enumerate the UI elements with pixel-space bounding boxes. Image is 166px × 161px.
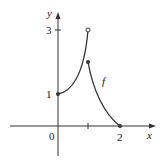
curve-piece-2 (88, 62, 120, 126)
curve-piece-1 (58, 30, 88, 94)
open-point-1-3 (86, 28, 90, 32)
closed-point-2-0 (118, 124, 122, 128)
x-axis-label: x (146, 129, 152, 141)
x-tick-label-2: 2 (117, 131, 123, 143)
closed-point-1-2 (86, 60, 90, 64)
y-axis-label: y (46, 7, 52, 19)
closed-point-0-1 (56, 92, 60, 96)
y-tick-label-1: 1 (46, 88, 52, 100)
x-axis-arrow-icon (149, 124, 156, 129)
function-graph: y 3 1 0 2 x f (0, 0, 166, 161)
y-axis-arrow-icon (56, 12, 61, 19)
function-label: f (102, 75, 107, 87)
origin-label: 0 (49, 130, 55, 142)
y-tick-label-3: 3 (46, 24, 52, 36)
